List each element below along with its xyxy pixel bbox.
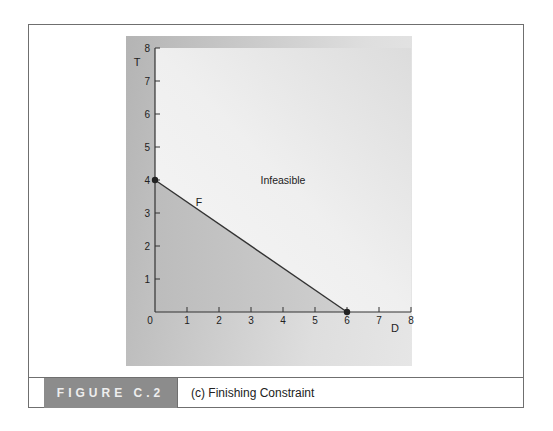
- svg-text:5: 5: [312, 315, 318, 326]
- y-tick-labels: 8 7 6 5 4 3 2 1: [144, 43, 150, 285]
- svg-text:1: 1: [184, 315, 190, 326]
- svg-text:0: 0: [147, 315, 153, 326]
- svg-text:6: 6: [344, 315, 350, 326]
- svg-text:7: 7: [144, 76, 150, 87]
- svg-text:6: 6: [144, 109, 150, 120]
- svg-text:3: 3: [144, 208, 150, 219]
- svg-text:1: 1: [144, 274, 150, 285]
- point-marker-0-4: [152, 177, 158, 183]
- figure-caption: (c) Finishing Constraint: [191, 378, 314, 408]
- infeasible-label: Infeasible: [261, 174, 306, 186]
- x-axis-title: D: [391, 322, 399, 334]
- svg-text:2: 2: [144, 241, 150, 252]
- point-marker-6-0: [344, 309, 350, 315]
- constraint-label-f: F: [196, 196, 202, 208]
- y-axis-title: T: [134, 56, 141, 68]
- svg-text:8: 8: [408, 315, 414, 326]
- svg-text:3: 3: [248, 315, 254, 326]
- chart: 8 7 6 5 4 3 2 1 0 1 2 3 4 5 6 7 8 T D F …: [0, 0, 553, 431]
- svg-text:5: 5: [144, 142, 150, 153]
- svg-text:4: 4: [280, 315, 286, 326]
- svg-text:2: 2: [216, 315, 222, 326]
- svg-text:7: 7: [376, 315, 382, 326]
- x-tick-labels: 0 1 2 3 4 5 6 7 8: [147, 315, 414, 326]
- figure-number-label: FIGURE C.2: [44, 378, 178, 408]
- svg-text:4: 4: [144, 175, 150, 186]
- svg-text:8: 8: [144, 43, 150, 54]
